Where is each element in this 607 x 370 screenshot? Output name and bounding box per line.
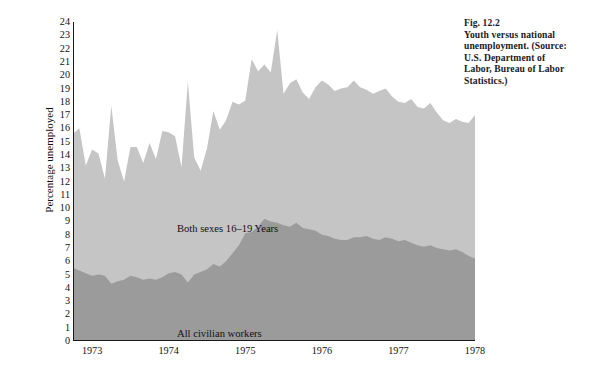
y-tick-label: 9 (44, 216, 70, 226)
x-tick-label: 1978 (465, 345, 485, 356)
caption-line: unemployment. (Source: (464, 40, 600, 52)
figure-container: Fig. 12.2 Youth versus national unemploy… (0, 0, 607, 370)
y-tick-label: 20 (44, 70, 70, 80)
x-tick-label: 1973 (82, 345, 102, 356)
y-tick-label: 8 (44, 230, 70, 240)
y-tick-label: 21 (44, 57, 70, 67)
caption-line: Statistics.) (464, 75, 600, 87)
annotation-civilian-series: All civilian workers (177, 328, 262, 339)
x-tick-label: 1975 (235, 345, 255, 356)
plot-area: Both sexes 16–19 Years All civilian work… (73, 22, 475, 341)
y-tick-label: 23 (44, 30, 70, 40)
y-tick-label: 10 (44, 203, 70, 213)
y-tick-label: 18 (44, 97, 70, 107)
y-tick-label: 6 (44, 256, 70, 266)
y-tick-label: 17 (44, 110, 70, 120)
caption-line: U.S. Department of (464, 52, 600, 64)
y-tick-label: 1 (44, 323, 70, 333)
x-tick-label: 1977 (388, 345, 408, 356)
y-tick-label: 22 (44, 44, 70, 54)
y-tick-label: 19 (44, 84, 70, 94)
y-tick-label: 4 (44, 283, 70, 293)
y-axis-tick-labels: 0123456789101112131415161718192021222324 (42, 22, 70, 341)
y-tick-label: 13 (44, 163, 70, 173)
y-tick-label: 24 (44, 17, 70, 27)
y-tick-label: 2 (44, 309, 70, 319)
y-tick-label: 15 (44, 137, 70, 147)
figure-caption: Fig. 12.2 Youth versus national unemploy… (464, 17, 600, 87)
x-tick-label: 1976 (312, 345, 332, 356)
caption-line: Fig. 12.2 (464, 17, 600, 29)
y-tick-label: 11 (44, 190, 70, 200)
y-tick-label: 16 (44, 123, 70, 133)
y-tick-label: 7 (44, 243, 70, 253)
annotation-youth-series: Both sexes 16–19 Years (177, 223, 278, 234)
y-tick-label: 14 (44, 150, 70, 160)
x-tick-label: 1974 (159, 345, 179, 356)
caption-line: Labor, Bureau of Labor (464, 63, 600, 75)
y-tick-label: 12 (44, 177, 70, 187)
caption-line: Youth versus national (464, 29, 600, 41)
area-chart (73, 22, 475, 341)
y-tick-label: 3 (44, 296, 70, 306)
x-axis-tick-labels: 197319741975197619771978 (0, 345, 607, 361)
y-tick-label: 5 (44, 270, 70, 280)
